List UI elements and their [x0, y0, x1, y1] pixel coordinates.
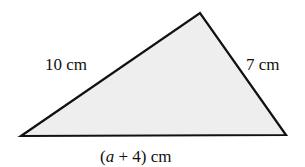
base-label-variable: a — [106, 147, 115, 166]
triangle-shape — [21, 13, 286, 136]
base-label-rest: + 4) cm — [114, 147, 171, 166]
right-side-label: 7 cm — [246, 55, 280, 74]
triangle-diagram: 10 cm 7 cm (a + 4) cm — [0, 0, 305, 167]
base-label: (a + 4) cm — [100, 147, 171, 166]
left-side-label: 10 cm — [45, 55, 87, 74]
